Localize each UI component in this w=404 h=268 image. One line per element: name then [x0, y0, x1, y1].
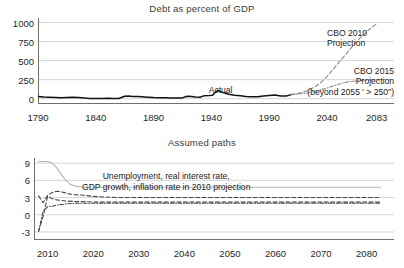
- panel-assumed-paths: Assumed paths -3 0 3 6 9 2010 2020 2030 …: [0, 130, 404, 268]
- x-tick-label: 2040: [174, 248, 195, 259]
- y-tick-label: 500: [18, 55, 34, 66]
- y-tick-label: 0: [25, 209, 30, 220]
- x-tick-label: 1890: [143, 112, 164, 123]
- annotation-assumed-paths-legend: Unemployment, real interest rate, GDP gr…: [82, 171, 250, 192]
- annotation-cbo-2010-projection: CBO 2010 Projection: [327, 28, 367, 49]
- x-tick-label: 2050: [219, 248, 240, 259]
- x-tick-label: 2010: [37, 248, 58, 259]
- annotation-cbo-2015-line3: (beyond 2055 ' > 250"): [307, 87, 394, 98]
- x-tick-label: 2060: [265, 248, 286, 259]
- annotation-paths-line2: GDP growth, inflation rate in 2010 proje…: [82, 182, 250, 193]
- x-tick-label: 2040: [316, 112, 337, 123]
- annotation-actual: Actual: [209, 85, 233, 96]
- y-tick-label: 250: [18, 74, 34, 85]
- panel-debt-title: Debt as percent of GDP: [0, 3, 404, 14]
- panel-paths-title: Assumed paths: [0, 137, 404, 148]
- chart-figure: Debt as percent of GDP 0 250 500 750 100…: [0, 0, 404, 268]
- annotation-cbo-2010-line2: Projection: [327, 38, 367, 49]
- y-tick-label: -3: [22, 226, 30, 237]
- x-tick-label: 2070: [311, 248, 332, 259]
- y-tick-label: 1000: [13, 17, 34, 28]
- plot-area-assumed-paths: -3 0 3 6 9 2010 2020 2030 2040 2050 2060…: [34, 158, 394, 240]
- x-tick-label: 1790: [27, 112, 48, 123]
- x-tick-label: 2030: [128, 248, 149, 259]
- y-tick-label: 0: [29, 93, 34, 104]
- annotation-cbo-2015-projection: CBO 2015 Projection (beyond 2055 ' > 250…: [307, 66, 394, 98]
- x-tick-label: 2020: [83, 248, 104, 259]
- y-tick-label: 9: [25, 158, 30, 169]
- x-tick-label: 1940: [201, 112, 222, 123]
- annotation-cbo-2010-line1: CBO 2010: [327, 28, 367, 39]
- annotation-cbo-2015-line2: Projection: [307, 76, 394, 87]
- y-tick-label: 750: [18, 36, 34, 47]
- annotation-paths-line1: Unemployment, real interest rate,: [82, 171, 250, 182]
- y-tick-label: 3: [25, 192, 30, 203]
- annotation-cbo-2015-line1: CBO 2015: [307, 66, 394, 77]
- plot-area-debt: 0 250 500 750 1000 1790 1840 1890 1940 1…: [38, 18, 394, 104]
- x-tick-label: 2083: [366, 112, 387, 123]
- x-tick-label: 1990: [259, 112, 280, 123]
- y-tick-label: 6: [25, 175, 30, 186]
- x-tick-label: 2080: [356, 248, 377, 259]
- x-tick-label: 1840: [85, 112, 106, 123]
- panel-debt-as-percent-of-gdp: Debt as percent of GDP 0 250 500 750 100…: [0, 0, 404, 134]
